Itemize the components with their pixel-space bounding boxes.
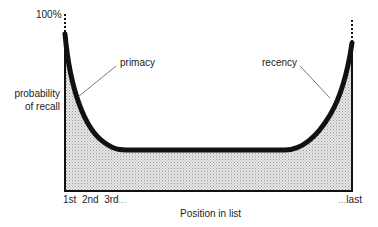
x-tick-last-label: ...last (338, 194, 362, 206)
y-max-label: 100% (36, 9, 62, 21)
x-tick-first-ellipsis: ... (119, 194, 127, 205)
primacy-pointer (78, 66, 116, 97)
y-axis-label-line2: of recall (25, 101, 60, 113)
x-tick-first-labels: 1st 2nd 3rd... (63, 194, 127, 206)
y-axis-label-line1: probability (14, 88, 60, 100)
x-tick-last: last (346, 194, 362, 205)
recall-curve (65, 34, 352, 150)
x-tick-first: 1st 2nd 3rd (63, 194, 119, 205)
primacy-label: primacy (120, 57, 155, 69)
x-axis-title: Position in list (180, 208, 241, 220)
serial-position-chart (0, 0, 378, 227)
recency-label: recency (262, 57, 297, 69)
recency-pointer (300, 66, 330, 98)
recall-area-fill (65, 36, 352, 191)
